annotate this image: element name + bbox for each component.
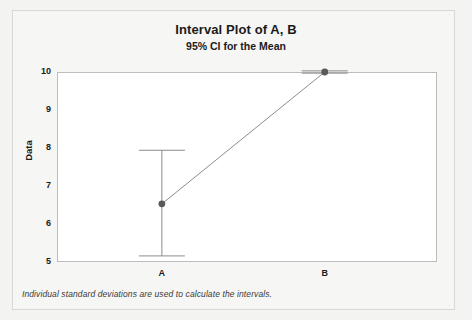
chart-title: Interval Plot of A, B <box>0 22 472 37</box>
y-tick-9: 9 <box>29 104 51 114</box>
chart-subtitle: 95% CI for the Mean <box>0 40 472 52</box>
y-tick-10: 10 <box>29 66 51 76</box>
mean-marker-B <box>321 69 328 76</box>
x-tick-B: B <box>305 268 345 278</box>
x-tick-A: A <box>142 268 182 278</box>
y-tick-5: 5 <box>29 256 51 266</box>
plot-data-layer <box>57 72 437 262</box>
y-tick-8: 8 <box>29 142 51 152</box>
mean-connecting-line <box>162 72 325 204</box>
y-tick-6: 6 <box>29 218 51 228</box>
mean-marker-A <box>158 200 165 207</box>
y-tick-7: 7 <box>29 180 51 190</box>
footnote-text: Individual standard deviations are used … <box>22 289 272 299</box>
interval-A <box>139 150 185 256</box>
interval-plot-figure: Interval Plot of A, B 95% CI for the Mea… <box>0 0 472 320</box>
